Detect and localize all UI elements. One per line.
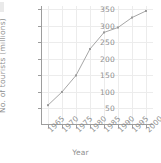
- y-tick-label: 100: [91, 87, 115, 96]
- y-tick-label: 250: [91, 38, 115, 47]
- y-tick-label: 300: [91, 21, 115, 30]
- tourism-line-chart: No. of tourists (millions) 5010015020025…: [0, 0, 161, 163]
- edge-artifact: [0, 2, 4, 12]
- y-tick-label: 350: [91, 5, 115, 14]
- data-point-marker: [131, 17, 133, 19]
- data-point-marker: [75, 74, 77, 76]
- data-point-marker: [61, 91, 63, 93]
- data-point-marker: [117, 26, 119, 28]
- y-tick-label: 200: [91, 54, 115, 63]
- y-tick-label: 50: [91, 104, 115, 113]
- data-point-marker: [47, 104, 49, 106]
- x-axis-title: Year: [0, 148, 161, 157]
- data-point-marker: [89, 48, 91, 50]
- data-point-marker: [103, 31, 105, 33]
- y-tick-label: 150: [91, 71, 115, 80]
- y-axis-title: No. of tourists (millions): [0, 18, 7, 113]
- data-point-marker: [145, 10, 147, 12]
